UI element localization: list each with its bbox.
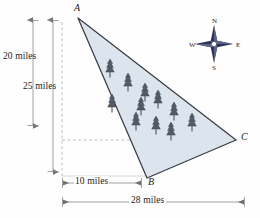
dimension-label-10-miles: 10 miles [74, 176, 109, 186]
dimension-label-20-miles: 20 miles [3, 51, 36, 61]
dimension-label-28-miles: 28 miles [129, 195, 166, 205]
compass-rose [195, 25, 233, 63]
vertex-label-b: B [148, 176, 154, 187]
compass-label-north: N [212, 17, 217, 25]
figure-canvas: A B C 20 miles 25 miles 10 miles 28 mile… [0, 0, 260, 218]
geometry-figure [0, 0, 260, 218]
vertex-label-a: A [74, 2, 80, 13]
dimension-label-25-miles: 25 miles [23, 81, 56, 91]
compass-label-west: W [189, 41, 196, 49]
compass-label-south: S [212, 64, 216, 72]
vertex-label-c: C [241, 131, 248, 142]
compass-label-east: E [236, 41, 240, 49]
